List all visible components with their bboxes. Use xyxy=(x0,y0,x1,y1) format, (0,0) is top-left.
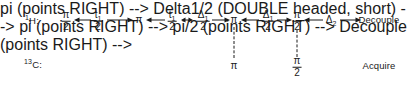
fraction-denominator: 2 xyxy=(62,21,71,32)
fraction-numerator: t1 xyxy=(168,10,177,22)
fraction-numerator: π xyxy=(62,10,71,22)
fraction-denominator: 2 xyxy=(197,21,210,32)
label-decouple: Decouple xyxy=(359,15,400,25)
pulse-proton-pi-over-2-second: π 2 xyxy=(293,10,302,33)
symbol-subscript: 2 xyxy=(332,20,336,27)
channel-label-carbon: 13C: xyxy=(24,60,42,70)
fraction-numerator: π xyxy=(293,56,302,68)
pulse-proton-pi-first: π xyxy=(136,15,143,25)
symbol-pi: π xyxy=(231,14,238,25)
pulse-carbon-pi: π xyxy=(231,61,238,71)
symbol-pi: π xyxy=(231,60,238,71)
delay-proton-t1-over-2-first: t1 2 xyxy=(94,10,103,33)
fraction-pi-over-2: π 2 xyxy=(62,10,71,32)
pulse-proton-pi-second: π xyxy=(231,15,238,25)
fraction-t1-over-2: t1 2 xyxy=(168,10,177,32)
fraction-denominator: 2 xyxy=(94,21,103,32)
delay-proton-delta2: Δ2 xyxy=(326,15,337,25)
arrow-left-from-delta1-second xyxy=(241,16,260,25)
channel-label-proton: 1H: xyxy=(25,16,39,26)
symbol-pi: π xyxy=(136,14,143,25)
arrow-right-to-decouple xyxy=(340,16,361,25)
arrow-left-pi-over-2 xyxy=(74,16,92,25)
arrow-left-from-t1-second xyxy=(146,16,166,25)
fraction-pi-over-2: π 2 xyxy=(293,56,302,78)
pulse-proton-pi-over-2-first: π 2 xyxy=(62,10,71,33)
pulse-carbon-pi-over-2: π 2 xyxy=(293,56,302,79)
delay-proton-delta1-over-2-first: Δ1 2 xyxy=(197,10,210,33)
symbol-delta: Δ xyxy=(326,14,333,25)
fraction-delta1-over-2: Δ1 2 xyxy=(197,10,210,32)
fraction-denominator: 2 xyxy=(293,67,302,78)
correlation-line-pi-over-2 xyxy=(297,30,298,57)
fraction-delta1-over-2: Δ1 2 xyxy=(262,10,275,32)
pulse-sequence-diagram: 1H: 13C: π 2 t1 2 π t1 2 Δ1 2 xyxy=(0,0,409,85)
correlation-line-pi xyxy=(234,27,235,58)
delay-proton-delta1-over-2-second: Δ1 2 xyxy=(262,10,275,33)
arrow-right-to-pi-second xyxy=(212,16,230,25)
arrow-right-to-pi xyxy=(107,16,133,25)
carbon-label-colon: : xyxy=(39,59,42,70)
fraction-denominator: 2 xyxy=(262,21,275,32)
arrow-right-to-pi-over-2 xyxy=(277,16,292,25)
fraction-denominator: 2 xyxy=(168,21,177,32)
fraction-numerator: t1 xyxy=(94,10,103,22)
arrow-left-from-delta2 xyxy=(304,16,324,25)
delay-proton-t1-over-2-second: t1 2 xyxy=(168,10,177,33)
carbon-mass-number: 13 xyxy=(24,58,32,65)
fraction-numerator: Δ1 xyxy=(262,10,275,22)
fraction-numerator: Δ1 xyxy=(197,10,210,22)
fraction-numerator: π xyxy=(293,10,302,22)
proton-label-colon: : xyxy=(36,15,39,26)
fraction-t1-over-2: t1 2 xyxy=(94,10,103,32)
arrow-double-t1-delta1 xyxy=(181,16,193,25)
label-acquire: Acquire xyxy=(363,61,396,71)
fraction-pi-over-2: π 2 xyxy=(293,10,302,32)
